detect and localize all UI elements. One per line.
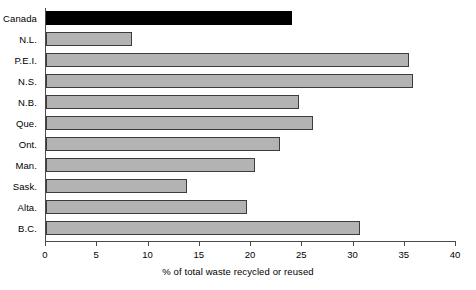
category-label-ont: Ont. [0, 134, 41, 155]
x-tick [250, 242, 251, 246]
x-tick [45, 242, 46, 246]
x-tick-label: 15 [184, 249, 214, 260]
category-label-alta: Alta. [0, 197, 41, 218]
bar-sask [46, 179, 187, 193]
x-tick [96, 242, 97, 246]
bar-row [46, 53, 409, 67]
x-tick [455, 242, 456, 246]
bar-row [46, 179, 187, 193]
category-label-pei: P.E.I. [0, 50, 41, 71]
plot-area [45, 8, 455, 241]
x-tick [199, 242, 200, 246]
bar-que [46, 116, 313, 130]
category-label-nl: N.L. [0, 29, 41, 50]
x-tick [301, 242, 302, 246]
bar-canada [46, 11, 292, 25]
x-tick-label: 0 [30, 249, 60, 260]
category-label-que: Que. [0, 113, 41, 134]
bar-bc [46, 221, 360, 235]
x-tick [353, 242, 354, 246]
bar-row [46, 74, 413, 88]
x-tick-label: 10 [133, 249, 163, 260]
bar-chart: Canada N.L. P.E.I. N.S. N.B. Que. Ont. M… [0, 0, 476, 290]
category-label-man: Man. [0, 155, 41, 176]
bar-row [46, 158, 255, 172]
bar-ont [46, 137, 280, 151]
x-tick-label: 35 [389, 249, 419, 260]
bar-nb [46, 95, 299, 109]
x-tick-label: 40 [440, 249, 470, 260]
x-tick-label: 30 [338, 249, 368, 260]
bar-row [46, 137, 280, 151]
bar-alta [46, 200, 247, 214]
category-label-ns: N.S. [0, 71, 41, 92]
bar-row [46, 221, 360, 235]
category-label-bc: B.C. [0, 218, 41, 239]
bar-row [46, 95, 299, 109]
x-tick [148, 242, 149, 246]
category-axis-labels: Canada N.L. P.E.I. N.S. N.B. Que. Ont. M… [0, 8, 41, 239]
bar-ns [46, 74, 413, 88]
x-tick-label: 20 [235, 249, 265, 260]
bar-row [46, 11, 292, 25]
bar-row [46, 200, 247, 214]
category-label-canada: Canada [0, 8, 41, 29]
category-label-sask: Sask. [0, 176, 41, 197]
x-tick-label: 25 [286, 249, 316, 260]
bar-nl [46, 32, 132, 46]
category-label-nb: N.B. [0, 92, 41, 113]
x-tick [404, 242, 405, 246]
bar-row [46, 32, 132, 46]
bar-man [46, 158, 255, 172]
x-tick-label: 5 [81, 249, 111, 260]
bar-row [46, 116, 313, 130]
x-axis-title: % of total waste recycled or reused [0, 266, 476, 277]
bar-pei [46, 53, 409, 67]
